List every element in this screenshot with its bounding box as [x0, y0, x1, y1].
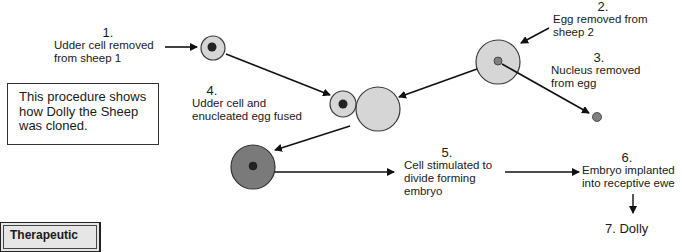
info-line-1: This procedure shows [19, 90, 158, 105]
fused-cells [330, 87, 400, 131]
therapeutic-label: Therapeutic [10, 228, 78, 242]
info-line-2: how Dolly the Sheep [19, 105, 158, 120]
udder-cell [201, 36, 225, 60]
arrow-step2 [521, 28, 549, 43]
step-3-line-1: Nucleus removed [551, 64, 647, 77]
step-3-label: 3. Nucleus removed from egg [551, 51, 647, 90]
step-5-line-3: embryo [404, 185, 492, 198]
step-3-line-2: from egg [551, 77, 647, 90]
info-line-3: was cloned. [19, 119, 158, 134]
step-4-line-1: Udder cell and [192, 97, 302, 110]
arrow-egg-to-fused [399, 69, 477, 97]
step-7-label: 7. Dolly [605, 222, 648, 235]
step-4-label: 4. Udder cell and enucleated egg fused [192, 84, 302, 123]
info-box: This procedure shows how Dolly the Sheep… [7, 83, 159, 145]
step-1-number: 1. [54, 26, 162, 39]
step-3-number: 3. [551, 51, 647, 64]
step-6-line-1: Embryo implanted [582, 164, 675, 177]
step-2-label: 2. Egg removed from sheep 2 [553, 0, 653, 39]
step-5-number: 5. [404, 146, 490, 159]
step-2-line-1: Egg removed from [553, 13, 653, 26]
step-7-text: 7. Dolly [605, 221, 648, 236]
therapeutic-box: Therapeutic [0, 222, 101, 252]
step-1-label: 1. Udder cell removed from sheep 1 [54, 26, 162, 65]
step-4-line-2: enucleated egg fused [192, 110, 302, 123]
arrow-fused-to-embryo [275, 126, 350, 150]
step-6-number: 6. [582, 151, 672, 164]
step-1-line-1: Udder cell removed [54, 39, 162, 52]
step-5-line-1: Cell stimulated to [404, 159, 492, 172]
step-6-line-2: into receptive ewe [582, 177, 675, 190]
step-5-line-2: divide forming [404, 172, 492, 185]
egg-cell [476, 40, 520, 84]
step-4-number: 4. [192, 84, 232, 97]
step-5-label: 5. Cell stimulated to divide forming emb… [404, 146, 492, 198]
step-6-label: 6. Embryo implanted into receptive ewe [582, 151, 675, 190]
step-1-line-2: from sheep 1 [54, 52, 162, 65]
embryo-cell [231, 145, 275, 189]
step-2-line-2: sheep 2 [553, 26, 653, 39]
step-2-number: 2. [553, 0, 653, 13]
removed-nucleus [593, 113, 602, 122]
